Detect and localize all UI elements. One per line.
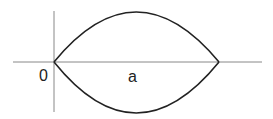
- lens-diagram: 0 a: [0, 0, 273, 119]
- origin-label: 0: [39, 67, 48, 84]
- upper-arc: [54, 12, 219, 62]
- point-a-label: a: [128, 68, 137, 85]
